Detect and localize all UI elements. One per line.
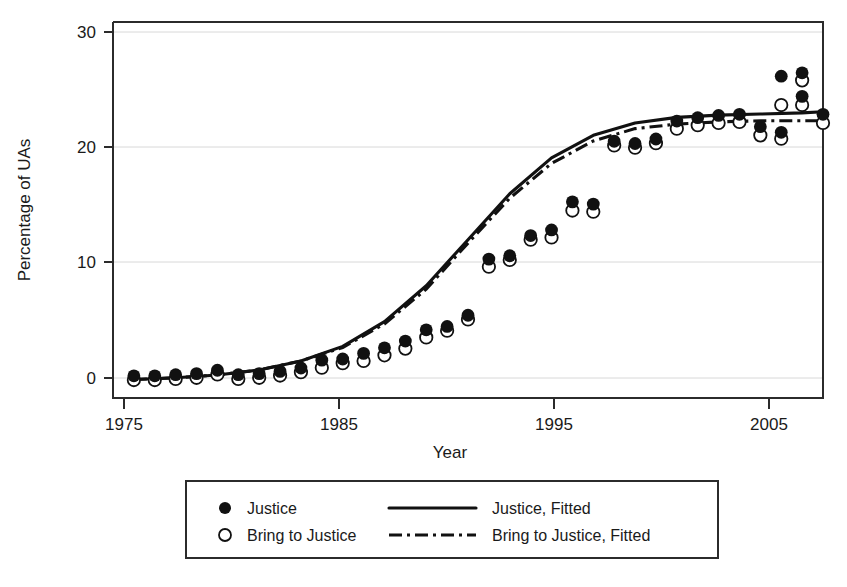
- y-tick-label-10: 10: [77, 253, 96, 272]
- legend-label-justice-fitted: Justice, Fitted: [492, 500, 591, 517]
- x-tick-label-1985: 1985: [320, 415, 358, 434]
- data-point-justice: [336, 353, 349, 366]
- data-point-justice: [545, 224, 558, 237]
- data-point-justice: [274, 365, 287, 378]
- data-point-justice: [482, 253, 495, 266]
- data-point-justice: [754, 120, 767, 133]
- data-point-justice: [378, 341, 391, 354]
- data-point-justice: [712, 109, 725, 122]
- data-point-justice: [817, 108, 830, 121]
- data-point-justice: [315, 354, 328, 367]
- data-point-justice: [566, 195, 579, 208]
- fitted-curve-justice: [134, 112, 823, 380]
- legend-marker-bring-to-justice: [219, 529, 231, 541]
- y-tick-label-30: 30: [77, 23, 96, 42]
- data-point-justice: [608, 135, 621, 148]
- plot-frame: [113, 22, 823, 398]
- y-tick-label-0: 0: [87, 369, 96, 388]
- frame-outline: [113, 22, 823, 398]
- data-point-justice: [190, 367, 203, 380]
- x-tick-label-2005: 2005: [750, 415, 788, 434]
- data-point-bring-to-justice: [775, 99, 787, 111]
- data-point-justice: [670, 115, 683, 128]
- chart-canvas: 30 20 10 0 Percentage of UAs 1975 1985 1…: [0, 0, 847, 587]
- data-point-justice: [232, 368, 245, 381]
- data-point-justice: [733, 108, 746, 121]
- data-point-justice: [796, 66, 809, 79]
- data-point-justice: [169, 368, 182, 381]
- fitted-curve-bring-to-justice: [134, 121, 823, 380]
- data-point-justice: [127, 369, 140, 382]
- data-point-justice: [420, 323, 433, 336]
- data-point-justice: [629, 137, 642, 150]
- y-axis-title: Percentage of UAs: [15, 139, 34, 282]
- legend-label-bring-to-justice: Bring to Justice: [247, 527, 356, 544]
- data-point-justice: [441, 320, 454, 333]
- legend-label-bring-to-justice-fitted: Bring to Justice, Fitted: [492, 527, 650, 544]
- justice-points-layer: [127, 66, 829, 382]
- y-tick-label-20: 20: [77, 138, 96, 157]
- x-tick-label-1995: 1995: [535, 415, 573, 434]
- x-tick-label-1975: 1975: [105, 415, 143, 434]
- fitted-curves-layer: [134, 112, 823, 380]
- data-point-justice: [399, 335, 412, 348]
- data-point-justice: [357, 347, 370, 360]
- data-point-justice: [796, 90, 809, 103]
- data-point-justice: [524, 229, 537, 242]
- legend: Justice Bring to Justice Justice, Fitted…: [186, 481, 718, 558]
- data-point-justice: [691, 111, 704, 124]
- chart-figure: 30 20 10 0 Percentage of UAs 1975 1985 1…: [0, 0, 847, 587]
- data-point-justice: [775, 70, 788, 83]
- legend-marker-justice: [219, 502, 231, 514]
- data-point-justice: [148, 369, 161, 382]
- data-point-justice: [211, 364, 224, 377]
- data-point-justice: [253, 367, 266, 380]
- data-point-justice: [650, 133, 663, 146]
- y-axis-ticks: [104, 32, 113, 378]
- data-point-justice: [503, 249, 516, 262]
- x-axis-title: Year: [433, 443, 468, 462]
- data-point-justice: [587, 198, 600, 211]
- data-point-justice: [295, 362, 308, 375]
- x-axis-ticks: [124, 398, 769, 409]
- data-point-justice: [775, 126, 788, 139]
- data-point-justice: [462, 309, 475, 322]
- legend-label-justice: Justice: [247, 500, 297, 517]
- legend-box: [186, 481, 718, 558]
